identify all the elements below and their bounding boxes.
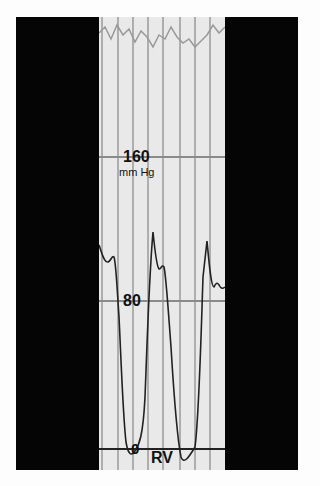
chamber-label-rv: RV: [151, 449, 173, 467]
scale-label-160: 160: [123, 148, 150, 166]
scale-unit-label: mm Hg: [119, 166, 154, 178]
pressure-recording-strip: [99, 17, 225, 470]
scale-label-0: 0: [131, 440, 139, 457]
vertical-grid-lines: [102, 17, 210, 470]
scale-label-80: 80: [123, 292, 141, 310]
pressure-trace-plot: [99, 17, 225, 470]
